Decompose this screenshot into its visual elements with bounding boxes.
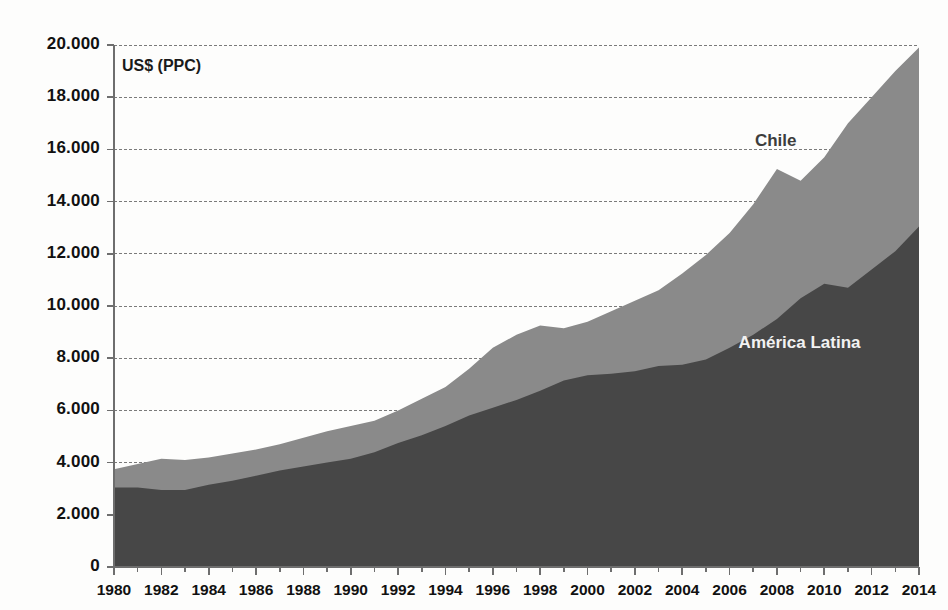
y-axis-tick-label: 4.000 bbox=[0, 452, 100, 472]
y-axis-tick-label: 10.000 bbox=[0, 295, 100, 315]
y-axis-tick-label: 18.000 bbox=[0, 86, 100, 106]
series-label-america-latina: América Latina bbox=[739, 333, 861, 353]
x-axis-tick-label: 2014 bbox=[884, 581, 948, 599]
chart-container: 02.0004.0006.0008.00010.00012.00014.0001… bbox=[0, 0, 948, 610]
y-axis-tick-label: 6.000 bbox=[0, 399, 100, 419]
area-series bbox=[114, 48, 919, 567]
y-axis-tick-label: 2.000 bbox=[0, 504, 100, 524]
y-axis-tick-label: 16.000 bbox=[0, 138, 100, 158]
y-axis-unit-label: US$ (PPC) bbox=[122, 57, 201, 75]
y-axis-tick-label: 20.000 bbox=[0, 34, 100, 54]
y-axis-tick-label: 8.000 bbox=[0, 347, 100, 367]
series-label-chile: Chile bbox=[755, 131, 797, 151]
area-chart-plot bbox=[0, 0, 948, 610]
y-axis-tick-label: 0 bbox=[0, 556, 100, 576]
y-axis-tick-label: 12.000 bbox=[0, 243, 100, 263]
y-axis-tick-label: 14.000 bbox=[0, 191, 100, 211]
